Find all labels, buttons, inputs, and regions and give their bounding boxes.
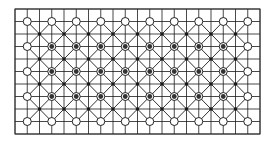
boundary-node — [23, 43, 31, 51]
center-dot — [160, 32, 164, 36]
boundary-node — [97, 118, 105, 126]
center-dot — [62, 32, 66, 36]
boundary-node — [170, 18, 178, 26]
boundary-node — [244, 68, 252, 76]
interior-node-core — [98, 44, 103, 49]
interior-node-core — [123, 94, 128, 99]
boundary-node — [219, 118, 227, 126]
center-dot — [209, 82, 213, 86]
interior-node-core — [49, 44, 54, 49]
interior-node-core — [123, 69, 128, 74]
center-dot — [87, 57, 91, 61]
interior-node-core — [196, 44, 201, 49]
interior-node-core — [98, 94, 103, 99]
grid-mesh-diagram — [0, 0, 272, 143]
center-dot — [87, 107, 91, 111]
boundary-node — [146, 18, 154, 26]
boundary-node — [48, 118, 56, 126]
center-dot — [136, 107, 140, 111]
center-dot — [87, 32, 91, 36]
interior-node-core — [147, 44, 152, 49]
interior-node-core — [172, 44, 177, 49]
center-dot — [111, 107, 115, 111]
interior-node-core — [172, 69, 177, 74]
center-dot — [234, 57, 238, 61]
center-dot — [62, 107, 66, 111]
boundary-node — [72, 18, 80, 26]
interior-node-core — [49, 94, 54, 99]
center-dot — [160, 107, 164, 111]
center-dot — [185, 57, 189, 61]
boundary-node — [219, 18, 227, 26]
boundary-node — [23, 68, 31, 76]
center-dot — [38, 32, 42, 36]
center-dot — [234, 82, 238, 86]
center-dot — [62, 57, 66, 61]
interior-node-core — [196, 94, 201, 99]
center-dot — [38, 82, 42, 86]
interior-node-core — [74, 44, 79, 49]
center-dot — [136, 82, 140, 86]
center-dot — [185, 82, 189, 86]
interior-node-core — [74, 94, 79, 99]
center-dot — [136, 32, 140, 36]
center-dot — [185, 32, 189, 36]
boundary-node — [48, 18, 56, 26]
boundary-node — [195, 18, 203, 26]
interior-node-core — [49, 69, 54, 74]
center-dot — [209, 107, 213, 111]
boundary-node — [170, 118, 178, 126]
boundary-node — [23, 93, 31, 101]
center-dot — [111, 82, 115, 86]
interior-node-core — [221, 44, 226, 49]
boundary-node — [23, 118, 31, 126]
center-dot — [38, 107, 42, 111]
center-dot — [234, 107, 238, 111]
center-dot — [111, 57, 115, 61]
center-dot — [160, 57, 164, 61]
boundary-node — [195, 118, 203, 126]
center-dot — [209, 32, 213, 36]
center-dot — [62, 82, 66, 86]
boundary-node — [121, 118, 129, 126]
boundary-node — [146, 118, 154, 126]
center-dot — [185, 107, 189, 111]
boundary-node — [244, 118, 252, 126]
interior-node-core — [221, 69, 226, 74]
interior-node-core — [196, 69, 201, 74]
interior-node-core — [221, 94, 226, 99]
boundary-node — [97, 18, 105, 26]
boundary-node — [72, 118, 80, 126]
interior-node-core — [172, 94, 177, 99]
center-dot — [87, 82, 91, 86]
interior-node-core — [74, 69, 79, 74]
center-dot — [209, 57, 213, 61]
interior-node-core — [147, 69, 152, 74]
center-dot — [160, 82, 164, 86]
center-dot — [38, 57, 42, 61]
boundary-node — [244, 18, 252, 26]
boundary-node — [121, 18, 129, 26]
boundary-node — [23, 18, 31, 26]
center-dot — [111, 32, 115, 36]
center-dot — [136, 57, 140, 61]
boundary-node — [244, 43, 252, 51]
interior-node-core — [98, 69, 103, 74]
interior-node-core — [147, 94, 152, 99]
interior-node-core — [123, 44, 128, 49]
center-dot — [234, 32, 238, 36]
boundary-node — [244, 93, 252, 101]
